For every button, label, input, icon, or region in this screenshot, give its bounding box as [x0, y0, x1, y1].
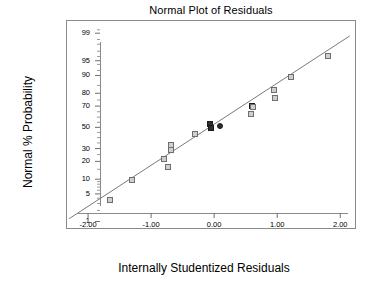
y-tick-label: 99: [64, 28, 90, 37]
data-point: [325, 53, 331, 59]
data-point: [192, 131, 198, 137]
y-tick-label: 90: [64, 70, 90, 79]
y-tick-label: 50: [64, 122, 90, 131]
y-tick-label: 20: [64, 156, 90, 165]
figure-container: Normal Plot of Residuals 151020305070809…: [0, 0, 368, 285]
y-tick-label: 70: [64, 101, 90, 110]
x-tick-label: 1.00: [260, 220, 294, 229]
y-tick-label: 80: [64, 88, 90, 97]
data-point: [165, 164, 171, 170]
x-axis-title: Internally Studentized Residuals: [40, 261, 368, 275]
y-tick-label: 10: [64, 174, 90, 183]
data-point: [107, 197, 113, 203]
data-point: [288, 74, 294, 80]
y-tick-label: 95: [64, 56, 90, 65]
x-tick-label: 2.00: [323, 220, 357, 229]
data-point: [208, 125, 214, 131]
y-axis-title: Normal % Probability: [21, 42, 35, 222]
data-point: [129, 177, 135, 183]
x-tick-label: -1.00: [134, 220, 168, 229]
data-point: [217, 123, 223, 129]
data-point: [271, 87, 277, 93]
data-point: [168, 147, 174, 153]
x-tick-label: 0.00: [197, 220, 231, 229]
x-tick-label: -2.00: [71, 220, 105, 229]
y-tick-label: 5: [64, 189, 90, 198]
chart-title: Normal Plot of Residuals: [66, 4, 356, 16]
y-tick-label: 30: [64, 144, 90, 153]
data-point: [248, 111, 254, 117]
data-point: [272, 95, 278, 101]
data-point: [161, 156, 167, 162]
data-point: [250, 104, 256, 110]
